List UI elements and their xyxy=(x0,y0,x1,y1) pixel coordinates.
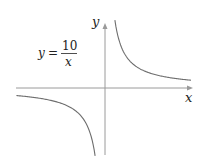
curve-negative-branch xyxy=(16,96,95,156)
hyperbola-graph: y x y = 10 x xyxy=(0,0,212,159)
y-axis xyxy=(103,23,108,155)
curve-positive-branch xyxy=(115,20,191,80)
equation-numerator: 10 xyxy=(62,39,77,53)
equation-denominator: x xyxy=(65,55,72,69)
y-axis-label: y xyxy=(91,14,100,29)
y-axis-arrow-icon xyxy=(103,23,108,29)
equation-equals: = xyxy=(48,46,58,60)
equation-label: y = 10 x xyxy=(37,39,77,69)
equation-lhs: y xyxy=(37,46,45,60)
x-axis-label: x xyxy=(185,90,193,105)
